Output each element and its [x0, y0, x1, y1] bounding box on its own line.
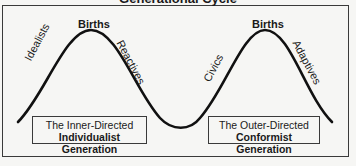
- inner-directed-box: The Inner-Directed Individualist Generat…: [32, 116, 147, 144]
- births-label-1: Births: [78, 18, 110, 30]
- outer-directed-box: The Outer-Directed Conformist Generation: [208, 116, 320, 144]
- box2-line2: Conformist Generation: [236, 131, 292, 155]
- box1-line1: The Inner-Directed: [33, 119, 146, 131]
- births-label-2: Births: [252, 18, 284, 30]
- box1-line2: Individualist Generation: [59, 131, 120, 155]
- box2-line1: The Outer-Directed: [209, 119, 319, 131]
